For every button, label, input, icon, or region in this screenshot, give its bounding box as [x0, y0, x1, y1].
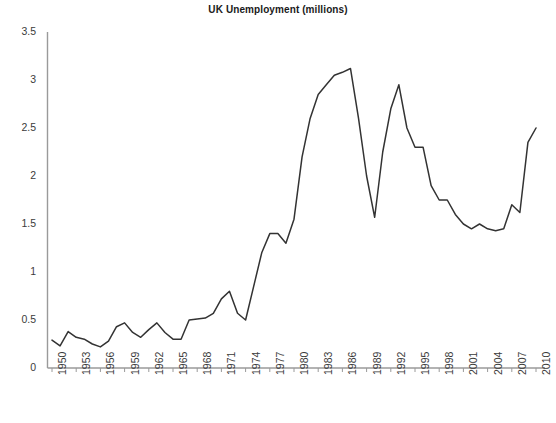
y-tick-label: 3 [2, 74, 36, 85]
x-tick-label: 1956 [105, 352, 116, 375]
chart-container: UK Unemployment (millions) 3.532.521.510… [0, 0, 556, 423]
x-tick-label: 1992 [396, 352, 407, 375]
x-axis-ticks [52, 368, 536, 372]
x-tick-label: 2007 [517, 352, 528, 375]
x-tick-label: 1959 [130, 352, 141, 375]
x-tick-label: 1980 [299, 352, 310, 375]
data-series-line [52, 68, 536, 346]
y-tick-label: 0 [2, 362, 36, 373]
x-tick-label: 1953 [81, 352, 92, 375]
x-tick-label: 1977 [275, 352, 286, 375]
x-tick-label: 1962 [154, 352, 165, 375]
x-tick-label: 2001 [468, 352, 479, 375]
x-tick-label: 1971 [226, 352, 237, 375]
y-tick-label: 1.5 [2, 218, 36, 229]
y-tick-label: 0.5 [2, 314, 36, 325]
x-tick-label: 1995 [420, 352, 431, 375]
x-tick-label: 1986 [347, 352, 358, 375]
x-tick-label: 1950 [57, 352, 68, 375]
y-tick-label: 2 [2, 170, 36, 181]
x-tick-label: 1983 [323, 352, 334, 375]
x-tick-label: 1974 [251, 352, 262, 375]
x-tick-label: 1998 [444, 352, 455, 375]
x-tick-label: 2010 [541, 352, 552, 375]
x-tick-label: 2004 [493, 352, 504, 375]
x-tick-label: 1965 [178, 352, 189, 375]
y-tick-label: 2.5 [2, 122, 36, 133]
y-tick-label: 1 [2, 266, 36, 277]
y-tick-label: 3.5 [2, 26, 36, 37]
x-tick-label: 1989 [372, 352, 383, 375]
x-tick-label: 1968 [202, 352, 213, 375]
